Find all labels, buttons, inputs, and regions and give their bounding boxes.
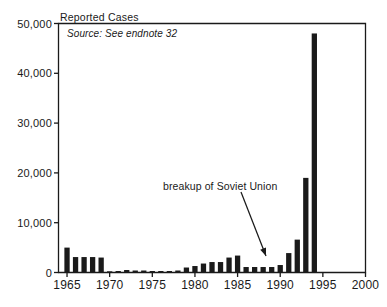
bar-1977 [167,271,172,272]
bar-1972 [124,270,129,272]
bar-1985 [235,256,240,273]
bar-1990 [278,265,283,272]
bar-1965 [64,248,69,273]
bar-1978 [175,271,180,273]
bar-1967 [81,257,86,272]
bar-1966 [73,257,78,272]
bar-1992 [295,240,300,273]
bar-1987 [252,267,257,272]
bar-1976 [158,271,163,272]
bar-1968 [90,257,95,272]
annotation-arrow-line [241,192,266,256]
bar-1970 [107,271,112,272]
bar-1991 [286,253,291,272]
bar-1994 [312,33,317,272]
bar-1983 [218,262,223,272]
bar-1984 [226,258,231,273]
bar-1986 [243,267,248,272]
bar-1989 [269,267,274,272]
bar-1969 [99,258,104,273]
bar-1979 [184,268,189,273]
bar-1988 [261,267,266,272]
axis-frame [59,24,366,273]
bar-1971 [116,271,121,272]
bar-1982 [209,262,214,272]
bar-1975 [150,271,155,272]
bar-1980 [192,266,197,272]
bar-1981 [201,264,206,273]
bar-1973 [133,271,138,273]
annotation-arrow-head [260,247,266,256]
chart-figure: Reported Cases Source: See endnote 32 br… [0,0,387,307]
bar-1974 [141,271,146,273]
plot-area [0,0,387,307]
bar-1993 [303,178,308,273]
